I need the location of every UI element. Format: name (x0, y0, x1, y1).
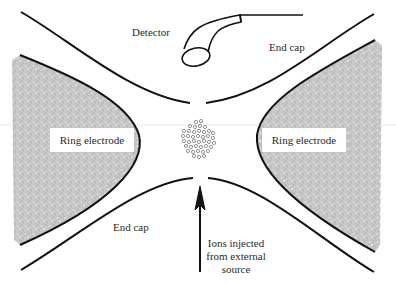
ions-injected-line-1: Ions injected (204, 237, 268, 250)
detector-tip (240, 14, 241, 22)
ions-injected-line-2: from external (204, 250, 268, 263)
ring-electrode-right-label: Ring electrode (262, 128, 346, 152)
end-cap-bottom-label: End cap (113, 221, 149, 234)
detector-label: Detector (132, 26, 170, 39)
detector-body (184, 15, 241, 52)
end-cap-top-label: End cap (269, 41, 305, 54)
ring-electrode-right-text: Ring electrode (272, 134, 336, 146)
ions-injected-label: Ions injected from external source (204, 237, 268, 276)
ring-electrode-left-label: Ring electrode (50, 128, 134, 152)
detector-opening (180, 45, 211, 68)
ions-injected-line-3: source (204, 263, 268, 276)
ring-electrode-left-text: Ring electrode (60, 134, 124, 146)
